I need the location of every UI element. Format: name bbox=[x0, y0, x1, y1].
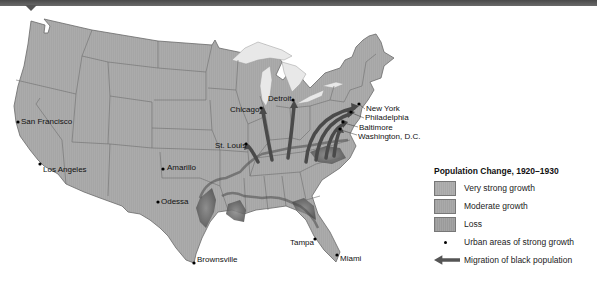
city-label-tampa: Tampa bbox=[290, 238, 314, 247]
legend-label: Very strong growth bbox=[464, 183, 535, 193]
city-label-san-francisco: San Francisco bbox=[21, 117, 72, 126]
city-label-miami: Miami bbox=[340, 254, 361, 263]
city-label-philadelphia: Philadelphia bbox=[365, 113, 409, 122]
swatch-loss bbox=[434, 217, 456, 232]
legend-title: Population Change, 1920–1930 bbox=[434, 166, 594, 176]
dot-icon bbox=[444, 241, 447, 244]
city-label-new-york: New York bbox=[366, 104, 400, 113]
legend-label: Urban areas of strong growth bbox=[464, 237, 574, 247]
swatch-very-strong-growth bbox=[434, 181, 456, 196]
map-legend: Population Change, 1920–1930 Very strong… bbox=[434, 166, 594, 269]
legend-label: Migration of black population bbox=[464, 255, 572, 265]
city-label-baltimore: Baltimore bbox=[359, 123, 393, 132]
legend-label: Moderate growth bbox=[464, 201, 528, 211]
legend-item-migration: Migration of black population bbox=[434, 251, 594, 269]
city-label-los-angeles: Los Angeles bbox=[43, 165, 87, 174]
city-label-chicago: Chicago bbox=[230, 105, 259, 114]
swatch-moderate-growth bbox=[434, 199, 456, 214]
city-label-st-louis: St. Louis bbox=[215, 141, 246, 150]
arrow-left-icon bbox=[434, 255, 460, 265]
city-label-washington-dc: Washington, D.C. bbox=[358, 132, 420, 141]
legend-item-loss: Loss bbox=[434, 215, 594, 233]
legend-item-moderate-growth: Moderate growth bbox=[434, 197, 594, 215]
legend-item-very-strong-growth: Very strong growth bbox=[434, 179, 594, 197]
city-label-amarillo: Amarillo bbox=[167, 163, 196, 172]
legend-item-urban-areas: Urban areas of strong growth bbox=[434, 233, 594, 251]
city-label-detroit: Detroit bbox=[268, 94, 292, 103]
legend-label: Loss bbox=[464, 219, 482, 229]
city-label-odessa: Odessa bbox=[161, 197, 189, 206]
city-label-brownsville: Brownsville bbox=[197, 255, 237, 264]
